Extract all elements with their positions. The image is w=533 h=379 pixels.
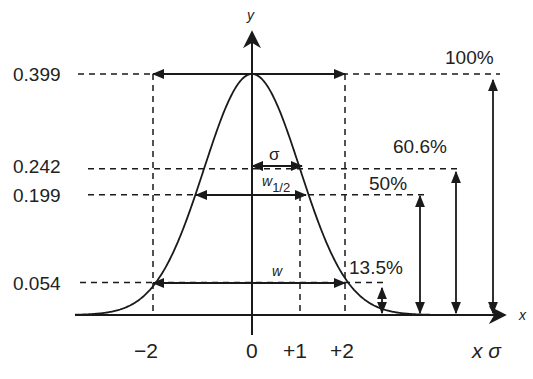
gaussian-diagram: x y σ w1/2 w 0.399 0.242 0.199 0.054 100… <box>0 0 533 379</box>
pct-label-100: 100% <box>445 47 494 68</box>
pct-label-50: 50% <box>369 173 407 194</box>
y-label-0054: 0.054 <box>13 273 61 294</box>
sigma-label: σ <box>269 145 280 164</box>
y-label-0242: 0.242 <box>13 156 61 177</box>
half-width-label: w1/2 <box>262 173 290 195</box>
x-tick-0: 0 <box>246 339 258 362</box>
y-label-0199: 0.199 <box>13 185 61 206</box>
x-tick-minus2: −2 <box>134 339 158 362</box>
full-width-label: w <box>272 263 283 279</box>
y-label-0399: 0.399 <box>13 64 61 85</box>
x-tick-plus2: +2 <box>330 339 354 362</box>
x-axis-label: x <box>518 307 527 323</box>
pct-label-60: 60.6% <box>393 136 447 157</box>
pct-label-13: 13.5% <box>349 257 403 278</box>
y-axis-label: y <box>246 7 255 23</box>
x-unit-label: x σ <box>471 339 502 362</box>
x-tick-plus1: +1 <box>283 339 307 362</box>
